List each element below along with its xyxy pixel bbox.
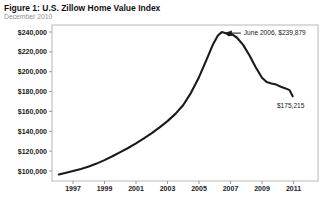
- y-axis-label: $200,000: [0, 67, 47, 76]
- x-axis-label: 2003: [153, 184, 183, 193]
- x-axis-label: 2005: [184, 184, 214, 193]
- y-axis-label: $180,000: [0, 87, 47, 96]
- zillow-hvi-figure: Figure 1: U.S. Zillow Home Value Index D…: [0, 0, 327, 208]
- annotation-peak: June 2006, $239,879: [244, 29, 306, 36]
- x-axis-label: 2009: [247, 184, 277, 193]
- x-axis-label: 1997: [58, 184, 88, 193]
- annotation-end-value: $175,215: [260, 102, 322, 109]
- x-axis-label: 2007: [216, 184, 246, 193]
- y-axis-label: $220,000: [0, 47, 47, 56]
- y-axis-label: $120,000: [0, 147, 47, 156]
- y-axis-label: $160,000: [0, 107, 47, 116]
- y-axis-label: $100,000: [0, 167, 47, 176]
- x-axis-label: 2011: [279, 184, 309, 193]
- y-axis-label: $240,000: [0, 28, 47, 37]
- y-axis-label: $140,000: [0, 127, 47, 136]
- x-axis-label: 2001: [121, 184, 151, 193]
- x-axis-label: 1999: [90, 184, 120, 193]
